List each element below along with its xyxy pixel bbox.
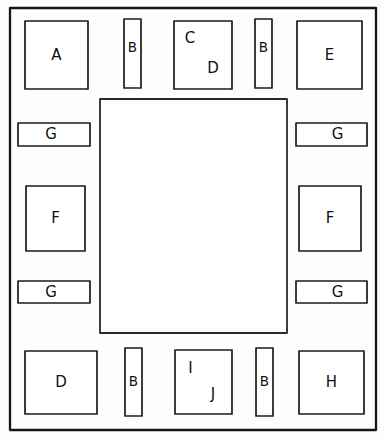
- right-strip-upper-outline: [296, 123, 367, 146]
- top-strip-right-outline: [255, 19, 272, 88]
- bottom-left-square[interactable]: D: [25, 351, 97, 414]
- bottom-left-square-outline: [25, 351, 97, 414]
- bottom-strip-left[interactable]: B: [125, 348, 142, 416]
- left-square-middle[interactable]: F: [26, 186, 85, 251]
- top-strip-left[interactable]: B: [124, 19, 141, 88]
- left-strip-upper[interactable]: G: [18, 123, 90, 146]
- bottom-strip-left-outline: [125, 348, 142, 416]
- right-strip-lower-outline: [296, 281, 367, 303]
- left-strip-lower-outline: [18, 281, 90, 303]
- top-left-square-outline: [25, 21, 88, 89]
- bottom-right-square[interactable]: H: [299, 351, 364, 414]
- top-right-square-outline: [297, 21, 362, 89]
- central-area: [100, 99, 287, 333]
- top-right-square[interactable]: E: [297, 21, 362, 89]
- diagram-svg: ABCBEGGFFGGDBIBH DJ: [0, 0, 387, 443]
- top-center-square[interactable]: C: [174, 21, 232, 89]
- bottom-right-square-outline: [299, 351, 364, 414]
- top-center-square-outline: [174, 21, 232, 89]
- left-strip-upper-outline: [18, 123, 90, 146]
- right-strip-lower[interactable]: G: [296, 281, 367, 303]
- top-strip-left-outline: [124, 19, 141, 88]
- bottom-center-square-outline: [175, 350, 232, 414]
- top-strip-right[interactable]: B: [255, 19, 272, 88]
- left-strip-lower[interactable]: G: [18, 281, 90, 303]
- right-strip-upper[interactable]: G: [296, 123, 367, 146]
- right-square-middle-outline: [299, 186, 361, 251]
- center-region-layer: [100, 99, 287, 333]
- bottom-strip-right-outline: [256, 348, 273, 416]
- top-left-square[interactable]: A: [25, 21, 88, 89]
- right-square-middle[interactable]: F: [299, 186, 361, 251]
- bottom-center-square[interactable]: I: [175, 350, 232, 414]
- bottom-strip-right[interactable]: B: [256, 348, 273, 416]
- figure-canvas: ABCBEGGFFGGDBIBH DJ: [0, 0, 387, 443]
- left-square-middle-outline: [26, 186, 85, 251]
